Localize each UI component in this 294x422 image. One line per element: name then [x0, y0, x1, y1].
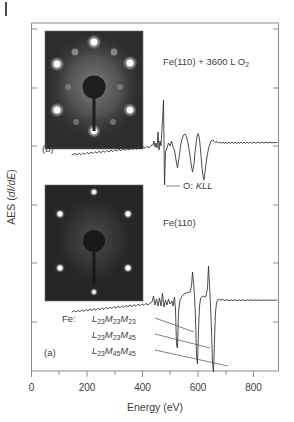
- y-axis-title-prefix: AES (: [5, 197, 17, 225]
- panel-label-a: (a): [44, 347, 56, 358]
- figure-canvas: 0 200 400 600 800 Energy (eV) AES (dI/dE…: [0, 0, 294, 422]
- t3-s3: 45: [128, 350, 136, 357]
- t3-m1: M: [105, 345, 113, 356]
- curve-label-oxidized-sub: 2: [245, 61, 249, 68]
- t1-s3: 23: [128, 318, 136, 325]
- fe-transition-label-1: L23M23M23: [92, 313, 136, 325]
- x-tick-label-800: 800: [245, 382, 262, 393]
- oxygen-kll-annotation: O: KLL: [166, 180, 213, 191]
- panel-label-b: (b): [42, 143, 54, 154]
- t1-m2: M: [120, 313, 128, 324]
- svg-text:AES (dI/dE): AES (dI/dE): [5, 169, 17, 224]
- leed-inset-oxidized: [45, 31, 143, 149]
- oxygen-kll-prefix: O:: [183, 180, 196, 191]
- x-tick-label-200: 200: [79, 382, 96, 393]
- fe-transition-label-2: L23M23M45: [92, 329, 136, 341]
- t3-m2: M: [120, 345, 128, 356]
- y-axis-title-italic: dI/dE: [5, 172, 17, 198]
- oxygen-kll-label: O: KLL: [183, 180, 213, 191]
- fe-label: Fe:: [62, 313, 76, 324]
- curve-label-oxidized-text: Fe(110) + 3600 L O: [163, 56, 245, 67]
- curve-label-clean: Fe(110): [163, 217, 196, 228]
- curve-label-oxidized: Fe(110) + 3600 L O2: [163, 56, 249, 68]
- x-tick-label-600: 600: [190, 382, 207, 393]
- y-axis-title-suffix: ): [5, 169, 17, 173]
- fe-transition-label-3: L23M45M45: [92, 345, 136, 357]
- t1-m1: M: [105, 313, 113, 324]
- leed-inset-clean: [45, 185, 143, 301]
- x-axis-title: Energy (eV): [127, 401, 183, 413]
- aes-leed-figure: 0 200 400 600 800 Energy (eV) AES (dI/dE…: [0, 0, 294, 422]
- t2-m2: M: [120, 329, 128, 340]
- oxygen-kll-italic: KLL: [196, 180, 213, 191]
- y-axis-title: AES (dI/dE): [5, 169, 17, 224]
- fe-transition-annotations: Fe: L23M23M23 L23M23M45 L23M45M45: [62, 313, 228, 366]
- x-tick-label-0: 0: [29, 382, 35, 393]
- x-axis-ticks: [32, 371, 254, 377]
- t2-s3: 45: [128, 334, 136, 341]
- page-bleed-mark: [5, 2, 7, 16]
- t2-m1: M: [105, 329, 113, 340]
- x-axis-tick-labels: 0 200 400 600 800: [29, 382, 263, 393]
- x-tick-label-400: 400: [134, 382, 151, 393]
